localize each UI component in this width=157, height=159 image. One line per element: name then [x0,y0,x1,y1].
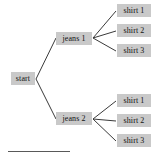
node-jeans-1: jeans 1 [56,32,92,45]
node-jeans-1-shirt-2: shirt 2 [117,24,151,37]
node-jeans-1-shirt-3: shirt 3 [117,44,151,57]
node-jeans-2-shirt-1: shirt 1 [117,94,151,107]
edge-start-to-jeans-1 [36,38,56,79]
edge-jeans-1-to-jeans-1-shirt-1 [93,11,116,38]
tree-diagram-canvas: start jeans 1 jeans 2 shirt 1 shirt 2 sh… [0,0,157,159]
node-jeans-2-shirt-2: shirt 2 [117,114,151,127]
edge-jeans-1-to-jeans-1-shirt-3 [93,38,116,51]
edge-jeans-2-to-jeans-2-shirt-2 [93,119,116,121]
node-start: start [11,72,35,85]
footer-divider [8,151,70,152]
edge-jeans-2-to-jeans-2-shirt-1 [93,101,116,119]
edge-jeans-2-to-jeans-2-shirt-3 [93,119,116,141]
node-jeans-2-shirt-3: shirt 3 [117,134,151,147]
node-jeans-1-shirt-1: shirt 1 [117,4,151,17]
node-jeans-2: jeans 2 [56,112,92,125]
edge-start-to-jeans-2 [36,79,56,119]
